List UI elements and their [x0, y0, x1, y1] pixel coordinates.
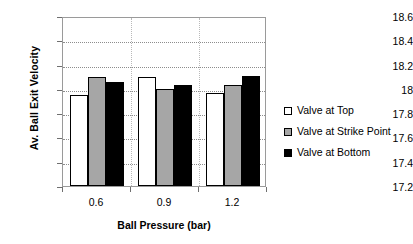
legend-entry: Valve at Strike Point: [284, 121, 412, 142]
bar-chart: Av. Ball Exit Velocity 17.217.417.617.81…: [0, 0, 413, 244]
legend-swatch-icon: [284, 128, 292, 136]
x-tick-mark: [266, 187, 267, 192]
x-tick-label: 0.6: [62, 196, 130, 208]
x-axis-label: Ball Pressure (bar): [62, 219, 266, 231]
bar: [174, 85, 192, 186]
legend-label: Valve at Top: [297, 105, 354, 116]
legend-swatch-icon: [284, 107, 292, 115]
plot-area: [62, 17, 266, 187]
legend-swatch-icon: [284, 149, 292, 157]
x-tick-mark: [130, 187, 131, 192]
y-tick-label: 18.2: [357, 61, 413, 71]
x-tick-mark: [198, 187, 199, 192]
bar: [224, 85, 242, 186]
x-tick-label: 0.9: [130, 196, 198, 208]
bar: [70, 95, 88, 186]
bar: [138, 77, 156, 186]
legend-entry: Valve at Top: [284, 100, 412, 121]
y-tick-label: 18.4: [357, 36, 413, 46]
legend-label: Valve at Strike Point: [297, 126, 391, 137]
bar: [88, 77, 106, 186]
y-axis-label: Av. Ball Exit Velocity: [28, 23, 40, 173]
y-tick-label: 18.6: [357, 12, 413, 22]
bar: [106, 82, 124, 186]
bar-series-group: [63, 18, 265, 186]
legend: Valve at TopValve at Strike PointValve a…: [284, 100, 412, 163]
legend-label: Valve at Bottom: [297, 147, 370, 158]
y-tick-label: 18: [357, 85, 413, 95]
x-tick-label: 1.2: [198, 196, 266, 208]
legend-entry: Valve at Bottom: [284, 142, 412, 163]
y-tick-label: 17.2: [357, 182, 413, 192]
bar: [156, 89, 174, 186]
bar: [206, 93, 224, 187]
x-tick-mark: [62, 187, 63, 192]
bar: [242, 76, 260, 187]
